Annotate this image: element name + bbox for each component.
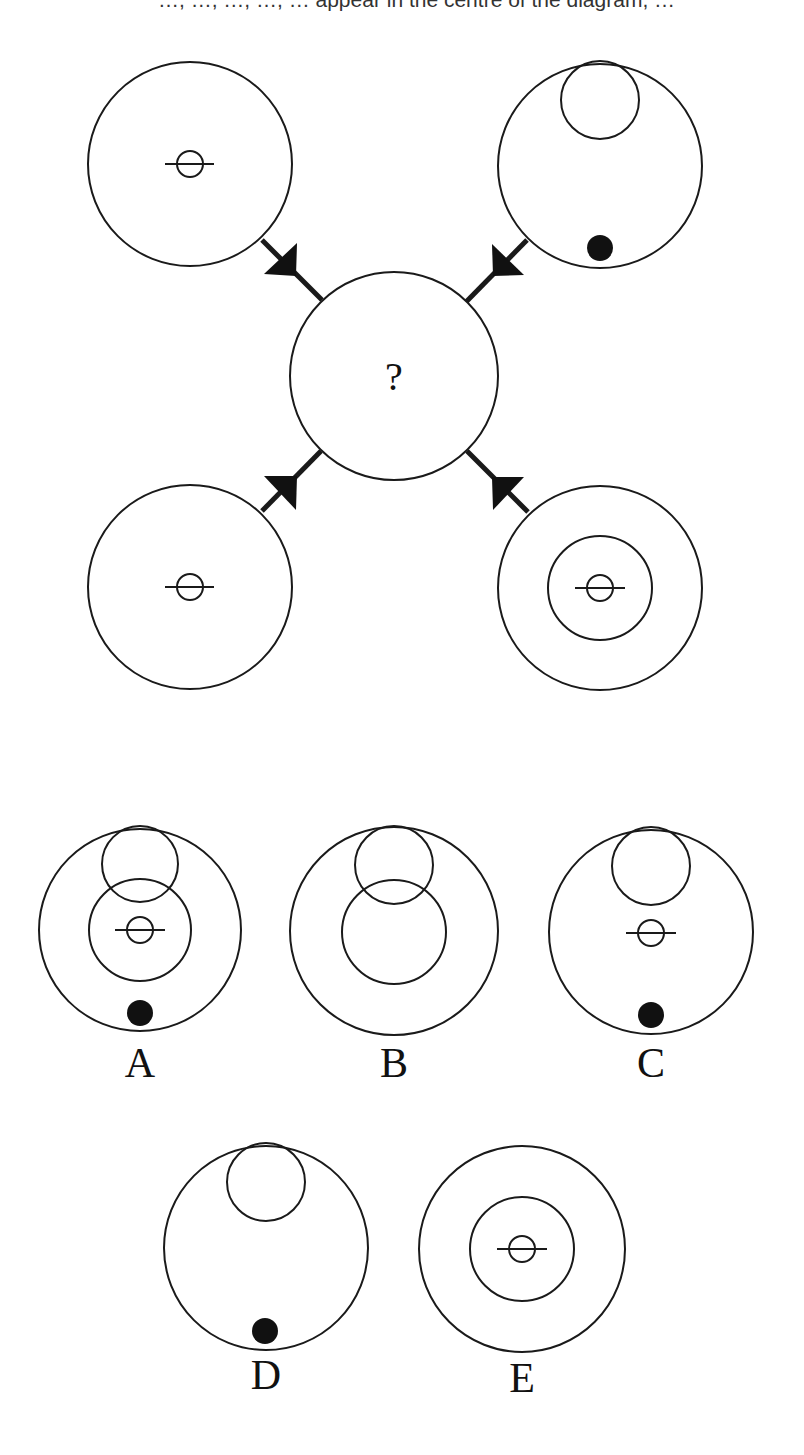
option-d[interactable]: D xyxy=(164,1143,368,1398)
option-b[interactable]: B xyxy=(290,826,498,1086)
option-label: A xyxy=(125,1040,156,1086)
source-circle-bottom-right xyxy=(498,486,702,690)
option-label: D xyxy=(251,1352,281,1398)
dot-icon xyxy=(638,1002,664,1028)
option-a[interactable]: A xyxy=(39,826,241,1086)
source-circle-top-left xyxy=(88,62,292,266)
option-e[interactable]: E xyxy=(419,1146,625,1401)
option-c[interactable]: C xyxy=(549,827,753,1086)
connector-top-left xyxy=(262,240,322,300)
source-circle-top-right xyxy=(498,61,702,268)
puzzle-diagram: ? A B xyxy=(0,0,804,1455)
option-label: E xyxy=(509,1355,535,1401)
option-label: B xyxy=(380,1040,408,1086)
connector-top-right xyxy=(466,240,527,302)
connector-bottom-right xyxy=(467,451,528,512)
question-mark: ? xyxy=(385,354,403,399)
center-circle: ? xyxy=(290,272,498,480)
source-circle-bottom-left xyxy=(88,485,292,689)
connector-bottom-left xyxy=(262,451,321,511)
option-label: C xyxy=(637,1040,665,1086)
dot-icon xyxy=(127,1000,153,1026)
dot-icon xyxy=(587,235,613,261)
dot-icon xyxy=(252,1318,278,1344)
